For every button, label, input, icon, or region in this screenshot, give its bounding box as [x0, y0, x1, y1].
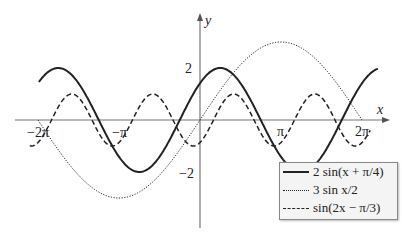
legend-item: sin(2x − π/3): [280, 199, 397, 217]
legend-label: 3 sin x/2: [313, 182, 358, 198]
tick-neg2pi: −2π: [27, 125, 49, 140]
tick-2: 2: [185, 61, 192, 76]
y-axis-arrow: [197, 13, 203, 21]
dotted-line-swatch: [283, 190, 309, 191]
legend-label: 2 sin(x + π/4): [313, 164, 384, 180]
legend-item: 3 sin x/2: [280, 181, 397, 199]
solid-line-swatch: [283, 171, 309, 173]
x-axis-label: x: [376, 102, 384, 117]
tick-pi: π: [277, 124, 284, 139]
tick-negpi: −π: [112, 125, 127, 140]
legend-item: 2 sin(x + π/4): [280, 163, 397, 181]
dashed-line-swatch: [283, 208, 309, 209]
x-axis-arrow: [382, 117, 390, 123]
tick-2pi: 2π: [355, 124, 369, 139]
tick-neg2: −2: [179, 166, 194, 181]
legend: 2 sin(x + π/4) 3 sin x/2 sin(2x − π/3): [279, 162, 398, 220]
y-axis-label: y: [203, 13, 212, 28]
legend-label: sin(2x − π/3): [313, 200, 380, 216]
